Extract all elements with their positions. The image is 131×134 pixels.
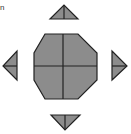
- octagon-net-diagram: [0, 0, 131, 134]
